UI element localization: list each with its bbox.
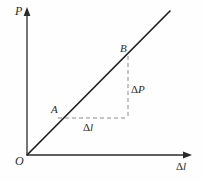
delta-p-variable: P: [138, 83, 145, 95]
delta-l-variable: l: [183, 160, 186, 172]
graph-canvas: [0, 0, 203, 182]
origin-label: O: [15, 155, 24, 167]
pressure-axis-label: P: [15, 5, 22, 17]
delta-l-axis-label: Δl: [176, 161, 186, 172]
proportional-line: [27, 11, 170, 155]
delta-l-leg-label: Δl: [83, 122, 93, 133]
delta-p-label: ΔP: [131, 84, 145, 95]
delta-l-leg-variable: l: [90, 121, 93, 133]
point-b-label: B: [120, 43, 127, 54]
pressure-axis-arrowhead: [24, 7, 31, 16]
point-a-label: A: [51, 104, 58, 115]
delta-l-axis-arrowhead: [183, 152, 192, 159]
figure-container: P O Δl A B ΔP Δl: [0, 0, 203, 182]
